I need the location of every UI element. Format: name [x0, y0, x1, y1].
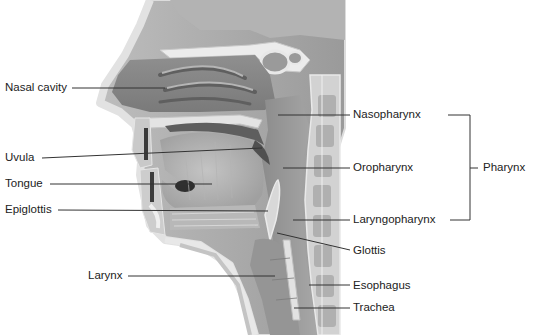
- pharynx-bracket: [448, 115, 478, 220]
- label-trachea: Trachea: [353, 301, 395, 314]
- label-epiglottis: Epiglottis: [5, 203, 52, 216]
- label-uvula: Uvula: [5, 151, 34, 164]
- pharynx-anatomy-diagram: Nasal cavity Uvula Tongue Epiglottis Lar…: [0, 0, 533, 335]
- label-laryngopharynx: Laryngopharynx: [353, 213, 435, 226]
- label-esophagus: Esophagus: [353, 279, 411, 292]
- anatomy-illustration: [0, 0, 533, 335]
- label-tongue: Tongue: [5, 177, 43, 190]
- label-nasal-cavity: Nasal cavity: [5, 81, 67, 94]
- label-oropharynx: Oropharynx: [353, 161, 413, 174]
- upper-incisor: [144, 128, 148, 160]
- label-larynx: Larynx: [88, 269, 123, 282]
- upper-lip: [132, 118, 152, 168]
- label-pharynx: Pharynx: [483, 161, 525, 174]
- label-nasopharynx: Nasopharynx: [353, 108, 421, 121]
- label-glottis: Glottis: [353, 244, 386, 257]
- tongue-region: [160, 133, 264, 209]
